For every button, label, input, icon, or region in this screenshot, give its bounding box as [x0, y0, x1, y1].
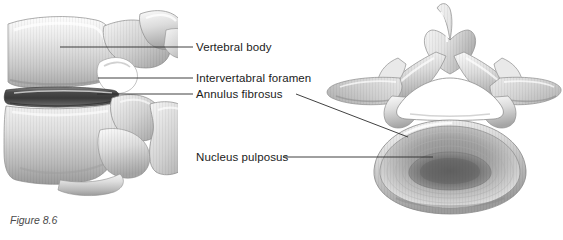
superior-view-vertebra — [327, 4, 561, 214]
anatomy-illustration-canvas — [0, 0, 563, 240]
figure-caption: Figure 8.6 — [10, 214, 57, 226]
label-vertebral-body: Vertebral body — [196, 42, 272, 54]
label-annulus-fibrosus: Annulus fibrosus — [196, 89, 283, 101]
anatomy-figure: Vertebral body Intervertabral foramen An… — [0, 0, 563, 240]
lateral-view-vertebrae — [4, 11, 201, 196]
label-nucleus-pulposus: Nucleus pulposus — [196, 152, 288, 164]
nucleus-core-shade — [420, 158, 480, 184]
label-intervertebral-foramen: Intervertabral foramen — [196, 73, 311, 85]
